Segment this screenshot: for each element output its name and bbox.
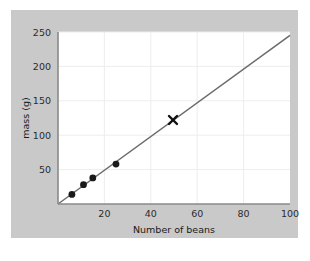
x-axis-title: Number of beans [133,224,215,235]
y-tick-label-50: 50 [39,164,51,175]
figure-container: 250 200 150 100 50 20 40 60 80 100 Numbe… [0,0,310,261]
y-tick-label-150: 150 [33,95,51,106]
y-tick-label-100: 100 [33,130,51,141]
y-axis-title: mass (g) [20,97,31,138]
data-point [69,191,76,198]
y-tick-label-250: 250 [33,27,51,38]
data-point [113,161,120,168]
x-tick-label-20: 20 [98,208,110,219]
x-tick-label-80: 80 [238,208,250,219]
x-tick-label-100: 100 [281,208,299,219]
y-tick-label-200: 200 [33,61,51,72]
chart-svg: 250 200 150 100 50 20 40 60 80 100 Numbe… [0,0,310,261]
x-tick-label-60: 60 [191,208,203,219]
data-point [80,181,87,188]
x-tick-label-40: 40 [145,208,157,219]
data-point [89,175,96,182]
